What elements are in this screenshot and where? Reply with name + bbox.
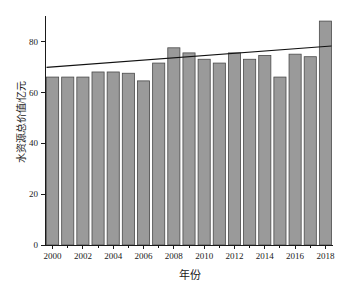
y-axis-ticks: 020406080 (29, 37, 45, 251)
bar-2000 (47, 77, 59, 245)
y-tick-label: 0 (34, 240, 39, 250)
bar-2014 (259, 55, 271, 245)
bar-2004 (107, 72, 119, 245)
chart-container: 水资源总价值/亿元 年份 020406080 20002002200420062… (0, 0, 340, 294)
x-tick-label: 2006 (135, 251, 154, 261)
bar-2008 (168, 48, 180, 245)
x-tick-label: 2008 (165, 251, 184, 261)
x-tick-label: 2002 (74, 251, 92, 261)
x-axis-ticks: 2000200220042006200820102012201420162018 (44, 245, 335, 261)
x-tick-label: 2018 (316, 251, 335, 261)
x-tick-label: 2004 (104, 251, 123, 261)
x-tick-label: 2012 (225, 251, 243, 261)
bar-2002 (77, 77, 89, 245)
bar-2006 (137, 81, 149, 245)
bar-2015 (274, 77, 286, 245)
bar-2005 (122, 73, 134, 245)
x-tick-label: 2016 (286, 251, 305, 261)
bar-2017 (304, 57, 316, 245)
x-tick-label: 2010 (195, 251, 214, 261)
bar-2016 (289, 54, 301, 245)
bar-chart-plot: 020406080 200020022004200620082010201220… (0, 0, 340, 294)
y-tick-label: 20 (29, 189, 39, 199)
y-tick-label: 80 (29, 37, 39, 47)
bar-2010 (198, 59, 210, 245)
bars-group (47, 21, 332, 245)
bar-2011 (213, 63, 225, 245)
bar-2018 (319, 21, 331, 245)
y-tick-label: 60 (29, 88, 39, 98)
bar-2009 (183, 53, 195, 245)
bar-2007 (153, 63, 165, 245)
x-tick-label: 2000 (44, 251, 63, 261)
y-tick-label: 40 (29, 138, 39, 148)
bar-2013 (244, 59, 256, 245)
x-tick-label: 2014 (256, 251, 275, 261)
bar-2003 (92, 72, 104, 245)
bar-2001 (62, 77, 74, 245)
bar-2012 (228, 53, 240, 245)
